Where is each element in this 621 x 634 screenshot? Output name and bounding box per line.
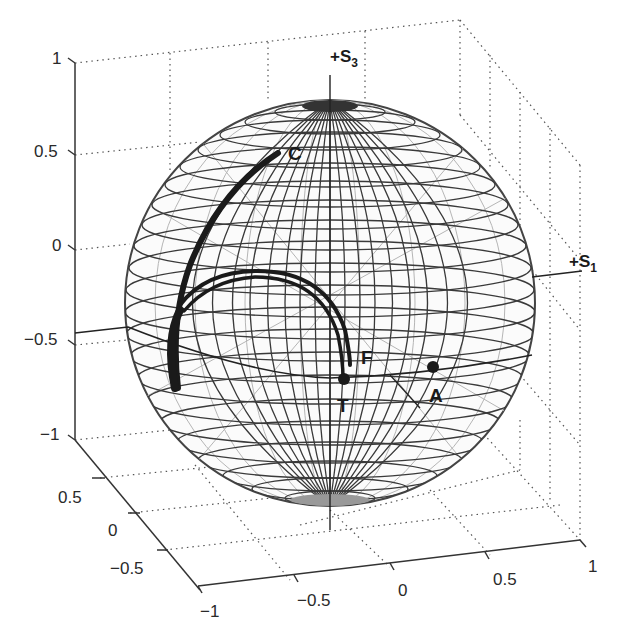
- poincare-sphere-figure: 1 0.5 0 −0.5 −1 0.5 0 −0.5 −1 −0.5 0 0.5…: [0, 0, 621, 634]
- y-tick-0.5: 0.5: [58, 488, 82, 507]
- x-axis: [198, 540, 586, 593]
- z-tick-neg0.5: −0.5: [24, 330, 58, 349]
- x-tick-neg1: −1: [200, 602, 219, 621]
- x-tick-0: 0: [398, 581, 407, 600]
- point-A: [427, 361, 439, 373]
- x-tick-0.5: 0.5: [493, 570, 517, 589]
- z-tick-1: 1: [52, 49, 61, 68]
- z-tick-0: 0: [52, 236, 61, 255]
- x-tick-neg0.5: −0.5: [297, 591, 331, 610]
- x-tick-1: 1: [588, 557, 597, 576]
- y-tick-0: 0: [108, 521, 117, 540]
- s1-axis-line: [532, 271, 582, 277]
- z-tick-0.5: 0.5: [34, 142, 58, 161]
- point-T: [338, 373, 350, 385]
- label-F: F: [361, 347, 373, 368]
- s3-axis-label: +S3: [330, 47, 358, 70]
- label-T: T: [337, 395, 349, 416]
- z-axis: [68, 58, 75, 440]
- label-A: A: [429, 385, 443, 406]
- y-tick-neg0.5: −0.5: [110, 559, 144, 578]
- z-tick-neg1: −1: [40, 425, 59, 444]
- label-C: C: [288, 143, 302, 164]
